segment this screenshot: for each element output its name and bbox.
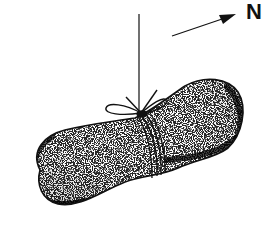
north-label: N bbox=[246, 0, 262, 24]
north-arrow-icon bbox=[172, 14, 236, 36]
lodestone bbox=[20, 70, 260, 220]
lodestone-illustration bbox=[0, 0, 262, 226]
